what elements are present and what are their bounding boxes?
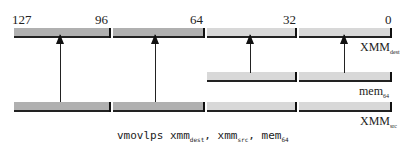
arrow-mem-to-dest-1	[250, 35, 251, 73]
bit-label-96: 96	[95, 13, 108, 26]
src-segment-0	[299, 102, 391, 112]
mem-segment-0	[299, 72, 391, 82]
src-segment-2	[113, 102, 204, 112]
instruction-text: vmovlps xmmdest, xmmsrc, mem64	[117, 129, 289, 143]
bit-label-64: 64	[190, 13, 203, 26]
xmm-dest-label: XMMdest	[360, 40, 400, 55]
arrow-mem-to-dest-0	[344, 35, 345, 73]
bit-label-0: 0	[385, 13, 392, 26]
src-segment-3	[14, 102, 110, 112]
bit-label-32: 32	[283, 13, 296, 26]
arrow-src-to-dest-3	[60, 35, 61, 102]
mem-segment-1	[207, 72, 296, 82]
bit-label-127: 127	[12, 13, 32, 26]
mem64-label: mem64	[359, 84, 389, 99]
arrow-src-to-dest-2	[155, 35, 156, 102]
xmm-src-label: XMMsrc	[360, 114, 397, 129]
src-segment-1	[207, 102, 296, 112]
